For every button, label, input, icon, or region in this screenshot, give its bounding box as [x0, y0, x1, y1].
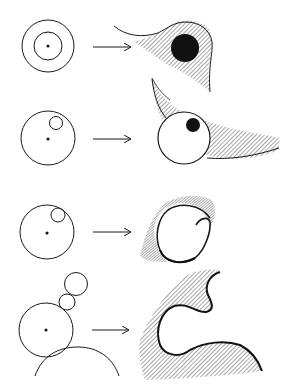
row-2 — [21, 79, 280, 165]
wave-curl-shape-icon — [139, 269, 262, 380]
circle-with-inner-small-circle-icon — [21, 111, 75, 165]
circle-cluster-icon — [19, 273, 119, 377]
row-3 — [20, 196, 215, 262]
concentric-circles-icon — [22, 20, 74, 72]
circle-with-tangent-small-circle-icon — [20, 205, 74, 259]
row-4 — [19, 269, 262, 380]
teardrop-shape-icon — [114, 20, 212, 100]
diagram-canvas — [0, 0, 298, 386]
spiral-curl-shape-icon — [140, 196, 215, 262]
row-1 — [22, 20, 212, 100]
crescent-band-shape-icon — [152, 79, 280, 164]
